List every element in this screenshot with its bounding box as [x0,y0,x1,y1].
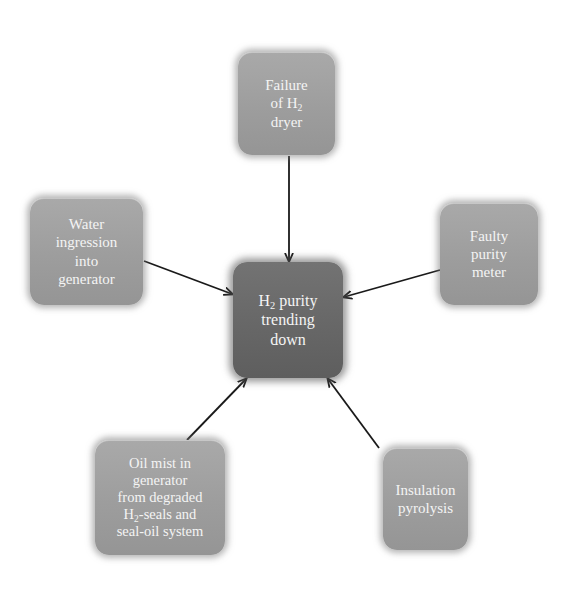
cause-label: Insulation pyrolysis [396,481,456,518]
effect-h2-purity-trending-down: H2 purity trending down [233,262,343,378]
cause-label: Water ingression into generator [56,215,118,288]
cause-insulation-pyrolysis: Insulation pyrolysis [383,448,468,550]
cause-faulty-purity-meter: Faulty purity meter [440,203,538,305]
effect-label: H2 purity trending down [259,291,318,350]
arrow-right-to-center [344,270,440,297]
cause-h2-dryer-failure: Failure of H2 dryer [238,52,335,155]
arrow-left-to-center [144,261,232,294]
arrow-bottom-left-to-center [187,379,246,440]
arrow-bottom-right-to-center [328,379,379,448]
cause-label: Oil mist in generator from degraded H2-s… [117,455,204,541]
cause-label: Failure of H2 dryer [265,76,308,131]
cause-oil-mist: Oil mist in generator from degraded H2-s… [95,440,225,555]
cause-label: Faulty purity meter [470,227,508,282]
cause-water-ingression: Water ingression into generator [30,198,143,305]
